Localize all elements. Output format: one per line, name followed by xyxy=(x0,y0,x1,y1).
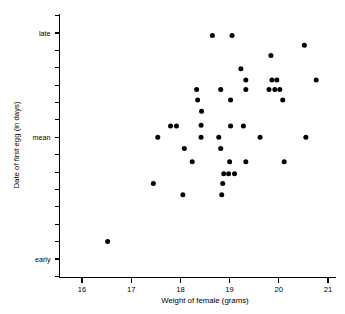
x-axis-label: Weight of female (grams) xyxy=(161,296,249,305)
data-point xyxy=(220,181,225,186)
data-point xyxy=(258,135,263,140)
data-point xyxy=(105,239,110,244)
data-point xyxy=(241,124,246,129)
x-tick-label: 19 xyxy=(225,285,233,294)
data-point xyxy=(199,123,204,128)
y-tick-label: early xyxy=(35,255,51,264)
y-tick-group xyxy=(55,16,60,277)
data-point xyxy=(302,43,307,48)
x-ticklabel-group: 161718192021 xyxy=(78,285,332,294)
data-point xyxy=(182,146,187,151)
data-point xyxy=(314,77,319,82)
data-point xyxy=(180,192,185,197)
data-point xyxy=(190,159,195,164)
data-point xyxy=(274,77,279,82)
data-point xyxy=(243,77,248,82)
data-point xyxy=(199,135,204,140)
data-point xyxy=(199,109,204,114)
y-axis-label: Date of first egg (in days) xyxy=(12,101,21,189)
data-point xyxy=(221,171,226,176)
data-point xyxy=(238,66,243,71)
x-tick-label: 16 xyxy=(78,285,86,294)
data-point xyxy=(243,87,248,92)
data-points-group xyxy=(105,33,319,244)
data-point xyxy=(272,87,277,92)
data-point xyxy=(151,181,156,186)
y-ticklabel-group: latemeanearly xyxy=(33,29,51,264)
data-point xyxy=(268,53,273,58)
data-point xyxy=(228,124,233,129)
data-point xyxy=(218,146,223,151)
data-point xyxy=(230,33,235,38)
x-tick-label: 20 xyxy=(275,285,283,294)
data-point xyxy=(243,159,248,164)
data-point xyxy=(210,33,215,38)
data-point xyxy=(266,87,271,92)
data-point xyxy=(227,159,232,164)
data-point xyxy=(303,135,308,140)
data-point xyxy=(155,135,160,140)
scatter-plot-figure: latemeanearly 161718192021 Weight of fem… xyxy=(0,0,345,314)
data-point xyxy=(218,87,223,92)
y-tick-label: mean xyxy=(33,133,51,142)
data-point xyxy=(174,124,179,129)
data-point xyxy=(226,171,231,176)
data-point xyxy=(280,97,285,102)
data-point xyxy=(194,87,199,92)
data-point xyxy=(282,159,287,164)
data-point xyxy=(219,192,224,197)
data-point xyxy=(216,135,221,140)
plot-canvas: latemeanearly 161718192021 Weight of fem… xyxy=(0,0,345,314)
data-point xyxy=(232,171,237,176)
data-point xyxy=(195,97,200,102)
y-tick-label: late xyxy=(39,29,51,38)
data-point xyxy=(277,87,282,92)
x-tick-group xyxy=(82,278,328,283)
x-tick-label: 17 xyxy=(127,285,135,294)
data-point xyxy=(228,97,233,102)
x-tick-label: 21 xyxy=(324,285,332,294)
x-tick-label: 18 xyxy=(176,285,184,294)
data-point xyxy=(168,124,173,129)
axes-group xyxy=(60,14,337,278)
data-point xyxy=(269,77,274,82)
